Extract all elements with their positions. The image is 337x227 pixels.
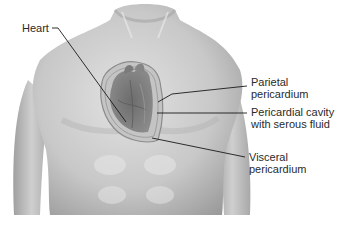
label-visceral-pericardium: Visceral pericardium bbox=[249, 151, 306, 175]
label-heart: Heart bbox=[22, 22, 49, 34]
label-visceral-line2: pericardium bbox=[249, 163, 306, 175]
label-parietal-line1: Parietal bbox=[251, 76, 308, 88]
diagram-stage: Heart Parietal pericardium Pericardial c… bbox=[0, 0, 337, 227]
label-pericardial-cavity: Pericardial cavity with serous fluid bbox=[251, 106, 334, 130]
label-parietal-pericardium: Parietal pericardium bbox=[251, 76, 308, 100]
label-cavity-line1: Pericardial cavity bbox=[251, 106, 334, 118]
label-parietal-line2: pericardium bbox=[251, 88, 308, 100]
label-cavity-line2: with serous fluid bbox=[251, 118, 334, 130]
label-heart-text: Heart bbox=[22, 22, 49, 34]
label-visceral-line1: Visceral bbox=[249, 151, 306, 163]
